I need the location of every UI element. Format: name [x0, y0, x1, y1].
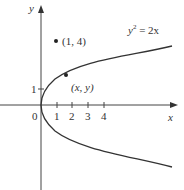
parabola-diagram: y x 0 1 1 2 3 4 (1, 4) (x, y) y2 = 2x — [0, 0, 184, 190]
parabola-curve-lower — [41, 105, 172, 167]
x-tick-label-4: 4 — [101, 110, 107, 122]
equation-label: y2 = 2x — [127, 23, 160, 36]
y-axis-label: y — [28, 2, 34, 14]
point-label-x-y: (x, y) — [71, 81, 94, 94]
x-tick-label-3: 3 — [85, 110, 91, 122]
x-axis-arrow-icon — [170, 102, 178, 108]
x-axis-label: x — [167, 111, 173, 123]
origin-label: 0 — [32, 110, 38, 122]
point-x-y — [64, 73, 68, 77]
equation-rhs: = 2x — [136, 24, 159, 36]
x-tick-label-1: 1 — [54, 110, 60, 122]
y-axis-arrow-icon — [38, 5, 44, 13]
point-1-4 — [54, 39, 58, 43]
y-tick-label-1: 1 — [31, 83, 37, 95]
x-tick-label-2: 2 — [69, 110, 75, 122]
point-label-1-4: (1, 4) — [62, 35, 86, 48]
parabola-curve — [41, 46, 172, 105]
